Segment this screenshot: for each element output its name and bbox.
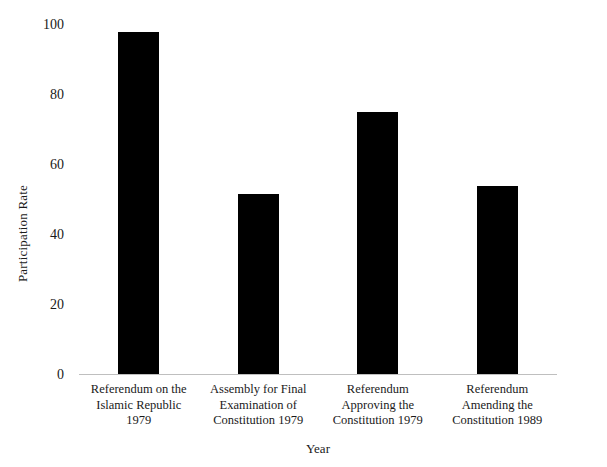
x-tick-label-1-line-2: Examination of bbox=[201, 398, 317, 414]
x-tick-label-2-line-3: Constitution 1979 bbox=[320, 413, 436, 429]
bar-2[interactable] bbox=[357, 112, 398, 374]
x-tick-label-2-line-2: Approving the bbox=[320, 398, 436, 414]
x-tick-label-1-line-1: Assembly for Final bbox=[201, 382, 317, 398]
x-tick-label-0: Referendum on the Islamic Republic 1979 bbox=[79, 382, 199, 438]
x-tick-label-3-line-1: Referendum bbox=[440, 382, 556, 398]
y-tick-label-0: 0 bbox=[57, 368, 64, 382]
x-tick-label-3-line-3: Constitution 1989 bbox=[440, 413, 556, 429]
x-axis-title: Year bbox=[79, 442, 557, 455]
y-tick-label-20: 20 bbox=[50, 298, 64, 312]
x-tick-label-0-line-2: Islamic Republic bbox=[81, 398, 197, 414]
x-tick-label-0-line-1: Referendum on the bbox=[81, 382, 197, 398]
x-tick-label-3: Referendum Amending the Constitution 198… bbox=[438, 382, 558, 438]
x-tick-label-0-line-3: 1979 bbox=[81, 413, 197, 429]
y-tick-label-100: 100 bbox=[43, 18, 64, 32]
x-axis-tick-labels: Referendum on the Islamic Republic 1979 … bbox=[79, 382, 557, 438]
x-tick-label-2: Referendum Approving the Constitution 19… bbox=[318, 382, 438, 438]
y-axis-tick-labels: 0 20 40 60 80 100 bbox=[0, 0, 72, 467]
bar-1[interactable] bbox=[238, 194, 279, 374]
x-tick-label-2-line-1: Referendum bbox=[320, 382, 436, 398]
y-tick-label-60: 60 bbox=[50, 158, 64, 172]
y-tick-label-40: 40 bbox=[50, 228, 64, 242]
y-tick-label-80: 80 bbox=[50, 88, 64, 102]
bar-3[interactable] bbox=[477, 186, 518, 374]
bar-chart: Participation Rate 0 20 40 60 80 100 Ref… bbox=[0, 0, 607, 467]
x-tick-label-1-line-3: Constitution 1979 bbox=[201, 413, 317, 429]
x-tick-label-1: Assembly for Final Examination of Consti… bbox=[199, 382, 319, 438]
x-axis-line bbox=[79, 374, 557, 375]
x-tick-label-3-line-2: Amending the bbox=[440, 398, 556, 414]
bar-0[interactable] bbox=[118, 32, 159, 374]
